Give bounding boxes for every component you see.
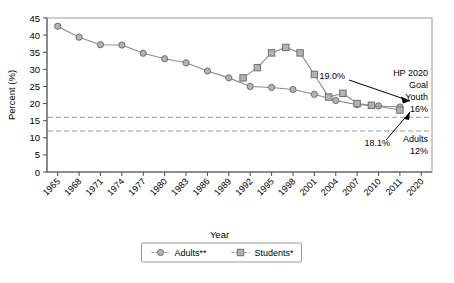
adults-endpoint-arrow [349, 80, 410, 101]
x-axis-tick-label: 1968 [62, 176, 83, 197]
legend-label-0: Adults** [175, 248, 208, 258]
x-axis-tick-label: 1986 [191, 176, 212, 197]
data-point-adults [290, 86, 296, 92]
data-point-students [340, 90, 346, 96]
x-axis-tick-label: 1989 [212, 176, 233, 197]
data-point-adults [226, 75, 232, 81]
data-point-adults [55, 23, 61, 29]
x-axis-tick-label: 1995 [255, 176, 276, 197]
data-point-adults [119, 42, 125, 48]
smoking-prevalence-line-chart: 051015202530354045Percent (%)19651968197… [0, 0, 454, 283]
hp-goal-adults-value: 12% [410, 146, 428, 156]
data-point-adults [76, 34, 82, 40]
data-point-adults [183, 60, 189, 66]
legend-label-1: Students* [255, 248, 295, 258]
y-axis-tick-label: 10 [29, 132, 40, 143]
data-point-adults [97, 42, 103, 48]
y-axis-tick-label: 30 [29, 64, 40, 75]
data-point-students [254, 64, 260, 70]
plot-area-border [47, 18, 432, 172]
x-axis-tick-label: 1998 [276, 176, 297, 197]
data-point-adults [268, 84, 274, 90]
y-axis-tick-label: 35 [29, 47, 40, 58]
y-axis-tick-label: 15 [29, 115, 40, 126]
hp-goal-adults-label: Adults [403, 134, 429, 144]
y-axis-tick-label: 0 [35, 167, 40, 178]
x-axis-tick-label: 2001 [298, 176, 319, 197]
y-axis-tick-label: 20 [29, 98, 40, 109]
data-point-students [325, 94, 331, 100]
x-axis-tick-label: 2007 [340, 176, 361, 197]
hp-goal-line1: HP 2020 [393, 68, 428, 78]
data-point-students [283, 44, 289, 50]
data-point-students [311, 71, 317, 77]
hp-goal-youth-value: 16% [410, 104, 428, 114]
y-axis-tick-label: 45 [29, 13, 40, 24]
data-point-students [368, 102, 374, 108]
y-axis-title: Percent (%) [6, 70, 17, 120]
data-point-students [297, 50, 303, 56]
x-axis-title: Year [210, 229, 229, 240]
data-point-adults [204, 68, 210, 74]
data-point-students [397, 107, 403, 113]
x-axis-tick-label: 2011 [384, 176, 405, 197]
hp-goal-line2: Goal [409, 80, 428, 90]
x-axis-tick-label: 2010 [362, 176, 383, 197]
x-axis-tick-label: 1974 [105, 176, 126, 197]
x-axis-tick-label: 1980 [148, 176, 169, 197]
x-axis-tick-label: 1965 [41, 176, 62, 197]
legend-marker-square [237, 249, 243, 255]
hp-goal-youth-label: Youth [405, 92, 428, 102]
data-point-adults [247, 83, 253, 89]
y-axis-tick-label: 40 [29, 30, 40, 41]
x-axis-tick-label: 2004 [319, 176, 340, 197]
x-axis-tick-label: 1977 [126, 176, 147, 197]
x-axis-tick-label: 2020 [404, 176, 425, 197]
y-axis-tick-label: 5 [35, 149, 40, 160]
data-point-adults [333, 97, 339, 103]
data-point-students [240, 75, 246, 81]
y-axis-tick-label: 25 [29, 81, 40, 92]
data-point-students [354, 100, 360, 106]
series-line-circle [58, 26, 400, 107]
x-axis-tick-label: 1983 [169, 176, 190, 197]
data-point-adults [140, 50, 146, 56]
data-point-students [268, 50, 274, 56]
data-point-adults [162, 56, 168, 62]
x-axis-tick-label: 1971 [84, 176, 105, 197]
data-point-adults [311, 91, 317, 97]
chart-container: 051015202530354045Percent (%)19651968197… [0, 0, 454, 283]
legend-marker-circle [157, 249, 163, 255]
adults-endpoint-label: 19.0% [319, 71, 345, 81]
x-axis-tick-label: 1992 [233, 176, 254, 197]
